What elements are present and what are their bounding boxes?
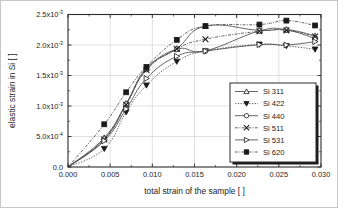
legend-item-label[interactable]: Si 531	[263, 136, 285, 145]
data-point-marker	[244, 113, 248, 117]
chart-canvas: 0.0000.0050.0100.0150.0200.0250.0300.05.…	[1, 1, 338, 208]
y-tick-label: 2.5x10-3	[36, 9, 63, 19]
data-point-marker	[101, 146, 107, 151]
data-point-marker	[203, 24, 208, 29]
chart-figure: 0.0000.0050.0100.0150.0200.0250.0300.05.…	[0, 0, 338, 208]
data-point-marker	[174, 59, 180, 64]
data-point-marker	[312, 47, 318, 52]
x-tick-label: 0.010	[143, 170, 162, 179]
y-tick-labels: 0.05.0x10-41.0x10-31.5x10-32.0x10-32.5x1…	[36, 9, 63, 172]
data-point-marker	[284, 18, 289, 23]
data-point-marker	[144, 64, 149, 69]
y-axis-title: elastic strain in Si [ ]	[7, 54, 17, 128]
chart-legend: Si 311Si 422Si 440Si 511Si 531Si 620	[230, 83, 319, 165]
legend-item-label[interactable]: Si 620	[263, 148, 285, 157]
x-tick-labels: 0.0000.0050.0100.0150.0200.0250.030	[59, 170, 331, 179]
y-tick-label: 0.0	[53, 163, 63, 172]
data-point-marker	[257, 22, 262, 27]
legend-item-label[interactable]: Si 440	[263, 112, 285, 121]
data-point-marker	[313, 23, 318, 28]
data-point-marker	[174, 37, 179, 42]
data-point-marker	[244, 150, 248, 154]
x-tick-label: 0.025	[270, 170, 289, 179]
data-point-marker	[144, 83, 150, 88]
y-tick-label: 1.5x10-3	[36, 70, 63, 80]
data-point-marker	[102, 122, 107, 127]
y-tick-label: 5.0x10-4	[36, 131, 63, 141]
y-tick-label: 2.0x10-3	[36, 40, 63, 50]
legend-item-label[interactable]: Si 422	[263, 99, 285, 108]
y-tick-label: 1.0x10-3	[36, 101, 63, 111]
x-tick-label: 0.005	[101, 170, 120, 179]
data-point-marker	[124, 90, 129, 95]
x-tick-label: 0.020	[227, 170, 246, 179]
legend-item-label[interactable]: Si 311	[263, 87, 284, 96]
legend-item-label[interactable]: Si 511	[263, 124, 284, 133]
x-tick-label: 0.015	[185, 170, 204, 179]
x-tick-label: 0.030	[312, 170, 331, 179]
x-axis-title: total strain of the sample [ ]	[144, 186, 245, 196]
data-point-marker	[174, 53, 179, 59]
